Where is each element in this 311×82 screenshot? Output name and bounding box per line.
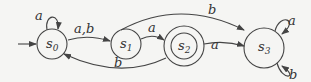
label-s2-s3: a: [211, 37, 219, 52]
label-s1-s2: a: [148, 20, 156, 35]
label-s3-s3-b: b: [289, 67, 297, 82]
label-s1-s3: b: [208, 2, 216, 17]
svg-text:s0: s0: [46, 36, 59, 53]
automaton-diagram: s0 s1 s2 s3 a a,b a b a b a b: [0, 0, 311, 82]
label-s0-s1: a,b: [74, 21, 94, 36]
edge-s0-s1: [68, 37, 110, 41]
state-s3: s3: [244, 28, 284, 68]
svg-text:s3: s3: [258, 39, 271, 56]
edge-s1-s2: [141, 36, 164, 40]
label-s0-s0: a: [35, 8, 43, 23]
edge-s0-s0: [47, 17, 59, 30]
svg-text:s2: s2: [178, 38, 191, 55]
edge-s2-s3: [204, 42, 244, 46]
state-s0: s0: [37, 29, 67, 59]
state-s2-accepting: s2: [164, 26, 204, 66]
edge-s1-s3: [121, 14, 244, 30]
label-s2-s0: b: [114, 55, 122, 70]
edge-s3-s3-b: [277, 63, 290, 76]
svg-text:s1: s1: [120, 36, 132, 53]
label-s3-s3-a: a: [288, 13, 296, 28]
